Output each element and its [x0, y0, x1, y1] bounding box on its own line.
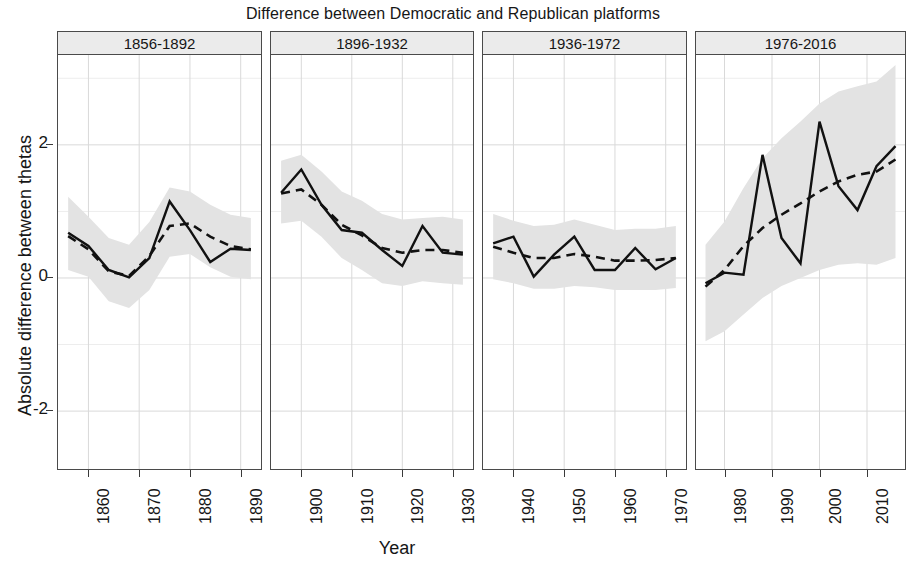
x-tick-label: 1910: [359, 488, 377, 524]
x-tick-mark: [88, 470, 89, 477]
x-tick-mark: [867, 470, 868, 477]
x-tick-label: 1880: [197, 488, 215, 524]
x-tick-mark: [513, 470, 514, 477]
x-tick-label: 1930: [460, 488, 478, 524]
x-axis-label: Year: [57, 538, 737, 559]
x-axis-ticks-layer: 1860187018801890190019101920193019401950…: [0, 0, 906, 566]
x-tick-mark: [615, 470, 616, 477]
x-tick-mark: [564, 470, 565, 477]
x-tick-label: 1860: [95, 488, 113, 524]
x-tick-mark: [241, 470, 242, 477]
x-tick-mark: [301, 470, 302, 477]
x-tick-mark: [725, 470, 726, 477]
chart-figure: Difference between Democratic and Republ…: [0, 0, 906, 566]
x-tick-label: 1950: [571, 488, 589, 524]
x-tick-label: 2000: [827, 488, 845, 524]
x-tick-label: 1990: [779, 488, 797, 524]
x-tick-mark: [453, 470, 454, 477]
x-tick-mark: [190, 470, 191, 477]
x-tick-label: 1970: [673, 488, 691, 524]
x-tick-label: 1900: [308, 488, 326, 524]
x-tick-label: 2010: [874, 488, 892, 524]
x-tick-mark: [772, 470, 773, 477]
x-tick-label: 1890: [248, 488, 266, 524]
x-tick-label: 1980: [732, 488, 750, 524]
x-tick-mark: [820, 470, 821, 477]
x-tick-mark: [402, 470, 403, 477]
x-tick-label: 1940: [520, 488, 538, 524]
x-tick-label: 1870: [146, 488, 164, 524]
x-tick-label: 1920: [409, 488, 427, 524]
x-tick-mark: [352, 470, 353, 477]
x-tick-mark: [666, 470, 667, 477]
x-tick-mark: [139, 470, 140, 477]
x-tick-label: 1960: [622, 488, 640, 524]
